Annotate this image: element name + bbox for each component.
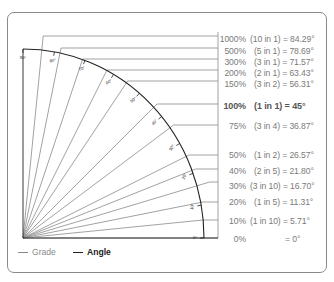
grade-label-row: 1000%(10 in 1) = 84.29° [0,34,334,46]
legend-angle: Angle [73,247,111,257]
arc-tick-mark [137,93,140,96]
legend-grade: Grade [18,247,56,257]
grade-percent: 150% [212,79,246,89]
grade-label-row: 20%(1 in 5) = 11.31° [0,197,334,209]
grade-label-row: 50%(1 in 2) = 26.57° [0,150,334,162]
grade-label-row: 0%= 0° [0,234,334,246]
grade-percent: 20% [212,197,246,207]
arc-tick-mark [176,144,179,146]
grade-label-row: 40%(2 in 5) = 21.80° [0,166,334,178]
grade-label-row: 75%(3 in 4) = 36.87° [0,121,334,133]
grade-angle-value: = 0° [285,234,300,244]
grade-percent: 0% [212,234,246,244]
grade-label-row: 10%(1 in 10) = 5.71° [0,216,334,228]
grade-percent: 75% [212,121,246,131]
legend-angle-label: Angle [87,247,111,257]
grade-ratio-angle: (2 in 5) = 21.80° [254,166,314,176]
legend-grade-label: Grade [32,247,56,257]
grade-label-row: 30%(3 in 10) = 16.70° [0,181,334,193]
grade-ratio-angle: (1 in 10) = 5.71° [250,216,310,226]
grade-percent: 10% [212,216,246,226]
grade-line-swatch-icon [18,252,28,253]
grade-ratio-angle: (1 in 2) = 26.57° [254,150,314,160]
grade-ratio-angle: (5 in 1) = 78.69° [254,46,314,56]
grade-ratio-angle: (3 in 4) = 36.87° [254,121,314,131]
grade-ratio-angle: (2 in 1) = 63.43° [254,68,314,78]
arc-tick-mark [159,117,162,120]
grade-percent: 200% [212,68,246,78]
grade-ratio-angle: (10 in 1) = 84.29° [250,34,314,44]
grade-label-row: 150%(3 in 2) = 56.31° [0,79,334,91]
grade-ratio-angle: (3 in 2) = 56.31° [254,79,314,89]
grade-percent: 100% [212,101,246,111]
grade-ratio-angle: (3 in 1) = 71.57° [254,57,314,67]
angle-line-swatch-icon [73,252,83,254]
grade-percent: 30% [212,181,246,191]
grade-percent: 300% [212,57,246,67]
grade-ratio-angle: (1 in 1) = 45° [254,101,305,111]
grade-label-row: 100%(1 in 1) = 45° [0,101,334,113]
grade-percent: 40% [212,166,246,176]
grade-percent: 50% [212,150,246,160]
grade-ratio-angle: (1 in 5) = 11.31° [254,197,313,207]
grade-ratio-angle: (3 in 10) = 16.70° [250,181,314,191]
grade-percent: 500% [212,46,246,56]
grade-percent: 1000% [212,34,246,44]
